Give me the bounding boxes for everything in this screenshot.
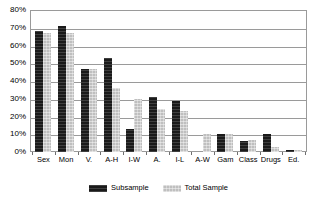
x-axis-tick-label: I-W — [123, 155, 146, 164]
legend-label: Total Sample — [185, 184, 228, 192]
bar-subsample — [104, 58, 112, 152]
x-axis-tick-mark — [169, 152, 170, 155]
x-axis-tick-mark — [260, 152, 261, 155]
x-axis-tick-mark — [214, 152, 215, 155]
bar-group — [32, 10, 55, 152]
bar-group — [123, 10, 146, 152]
x-axis-tick-mark — [100, 152, 101, 155]
bar-subsample — [149, 97, 157, 152]
x-axis-tick-label: A. — [146, 155, 169, 164]
legend-entry[interactable]: Subsample — [89, 184, 149, 192]
bar-total-sample — [203, 134, 211, 152]
x-axis-tick-label: Drugs — [260, 155, 283, 164]
x-axis-tick-label: Class — [237, 155, 260, 164]
bar-total-sample — [248, 140, 256, 152]
x-axis-tick-mark — [123, 152, 124, 155]
bar-group — [237, 10, 260, 152]
bar-subsample — [217, 134, 225, 152]
x-axis-tick-mark — [237, 152, 238, 155]
bar-subsample — [126, 129, 134, 152]
x-axis-tick-label: Ed. — [282, 155, 305, 164]
bar-group — [191, 10, 214, 152]
x-axis: SexMonV.A-HI-WA.I-LA-WGamClassDrugsEd. — [30, 155, 307, 164]
x-axis-tick-label: Sex — [32, 155, 55, 164]
bar-total-sample — [271, 147, 279, 152]
y-axis-tick-label: 40% — [10, 77, 26, 85]
y-axis-tick-label: 0% — [14, 148, 26, 156]
bar-total-sample — [89, 69, 97, 152]
bar-group — [282, 10, 305, 152]
bar-subsample — [286, 150, 294, 152]
bar-group — [55, 10, 78, 152]
bar-total-sample — [225, 134, 233, 152]
legend-label: Subsample — [111, 184, 149, 192]
bar-subsample — [172, 101, 180, 152]
legend-entry[interactable]: Total Sample — [163, 184, 228, 192]
x-axis-tick-mark — [32, 152, 33, 155]
bar-subsample — [35, 31, 43, 152]
bar-total-sample — [112, 88, 120, 152]
x-axis-tick-label: A-W — [191, 155, 214, 164]
bar-group — [100, 10, 123, 152]
y-axis-tick-label: 80% — [10, 6, 26, 14]
legend-swatch-icon — [89, 185, 107, 192]
bar-total-sample — [180, 111, 188, 152]
x-axis-tick-mark — [55, 152, 56, 155]
y-axis-tick-label: 30% — [10, 95, 26, 103]
bar-subsample — [240, 141, 248, 152]
bar-group — [214, 10, 237, 152]
legend-swatch-icon — [163, 185, 181, 192]
bar-chart: 80%70%60%50%40%30%20%10%0% SexMonV.A-HI-… — [0, 0, 317, 206]
x-axis-tick-mark — [282, 152, 283, 155]
y-axis-tick-label: 10% — [10, 130, 26, 138]
bar-group — [78, 10, 101, 152]
bar-total-sample — [294, 150, 302, 152]
bar-subsample — [58, 26, 66, 152]
x-axis-tick-label: Gam — [214, 155, 237, 164]
x-axis-tick-label: Mon — [55, 155, 78, 164]
bar-total-sample — [134, 99, 142, 152]
y-axis-tick-label: 60% — [10, 42, 26, 50]
bar-total-sample — [157, 109, 165, 152]
x-axis-tick-label: A-H — [100, 155, 123, 164]
bar-total-sample — [66, 33, 74, 152]
x-axis-tick-label: V. — [78, 155, 101, 164]
y-axis: 80%70%60%50%40%30%20%10%0% — [0, 0, 28, 206]
x-axis-tick-mark — [146, 152, 147, 155]
x-axis-tick-mark — [78, 152, 79, 155]
bar-subsample — [263, 134, 271, 152]
y-axis-tick-label: 50% — [10, 59, 26, 67]
bar-group — [169, 10, 192, 152]
bar-total-sample — [43, 33, 51, 152]
bar-group — [260, 10, 283, 152]
y-axis-tick-label: 20% — [10, 113, 26, 121]
chart-legend: SubsampleTotal Sample — [0, 184, 317, 192]
x-axis-tick-mark — [305, 152, 306, 155]
bar-group — [146, 10, 169, 152]
x-axis-tick-label: I-L — [169, 155, 192, 164]
bars-layer — [30, 10, 307, 152]
y-axis-tick-label: 70% — [10, 24, 26, 32]
x-axis-tick-mark — [191, 152, 192, 155]
bar-subsample — [81, 69, 89, 152]
